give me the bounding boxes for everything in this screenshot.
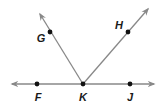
label-f: F: [35, 91, 42, 103]
point-g: [48, 30, 53, 35]
point-f: [35, 82, 40, 87]
point-h: [126, 30, 131, 35]
point-k: [81, 82, 86, 87]
label-j: J: [127, 91, 134, 103]
point-j: [128, 82, 133, 87]
geometry-diagram: F K J G H: [0, 0, 159, 107]
ray-kg: [40, 14, 83, 84]
label-k: K: [79, 91, 88, 103]
label-h: H: [115, 19, 124, 31]
label-g: G: [37, 32, 46, 44]
